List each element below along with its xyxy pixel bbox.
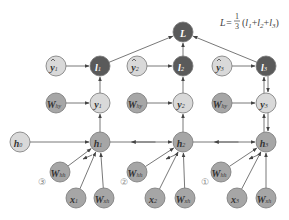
node-h1: h1 (90, 132, 110, 152)
node-yhat3: y3 (212, 56, 232, 76)
node-Whh2: Whh (127, 162, 147, 182)
step-marker-step1: ① (201, 177, 209, 187)
edge-x1-to-h1 (80, 152, 96, 189)
node-y2: y2 (173, 93, 193, 113)
node-yhat1: y1 (46, 56, 66, 76)
node-l3: l3 (256, 56, 276, 76)
step-marker-step2: ② (120, 177, 128, 187)
node-l2: l2 (173, 56, 193, 76)
node-Whh1: Whh (50, 162, 70, 182)
node-label: L (179, 28, 186, 39)
formula-frac-num: 1 (235, 12, 239, 21)
node-h0: h0 (10, 132, 30, 152)
formula-sum: (l1+l2+l3) (242, 17, 279, 30)
node-yhat2: y2 (127, 56, 147, 76)
backprop-edge-h2-to-whh (166, 155, 175, 159)
node-Wxh1: Wxh (94, 188, 114, 208)
node-Why2: Why (127, 93, 147, 113)
node-Wxh2: Wxh (175, 188, 195, 208)
node-Whh3: Whh (211, 162, 231, 182)
node-y3: y3 (256, 93, 276, 113)
node-Why3: Why (212, 93, 232, 113)
nodes: Ly1l1y2l2y3l3Whyy1Whyy2Whyy3h0h1h2h3Whhx… (10, 22, 276, 208)
edge-Wxh2-to-h2 (183, 153, 184, 188)
rnn-diagram: Ly1l1y2l2y3l3Whyy1Whyy2Whyy3h0h1h2h3Whhx… (0, 0, 289, 220)
loss-formula: L= 1 3 (l1+l2+l3) (219, 12, 279, 31)
node-L: L (173, 22, 193, 42)
node-Wxh3: Wxh (256, 188, 276, 208)
backprop-edge-h3-to-whh (249, 155, 258, 159)
edge-x3-to-h3 (242, 152, 261, 189)
node-Why1: Why (46, 93, 66, 113)
node-h3: h3 (256, 132, 276, 152)
edge-Wxh1-to-h1 (101, 153, 104, 188)
step-marker-step3: ③ (38, 177, 46, 187)
formula-lhs: L= (219, 17, 232, 28)
backprop-edge-h1-to-whh (83, 155, 92, 159)
node-x1: x1 (66, 188, 86, 208)
node-x3: x3 (227, 188, 247, 208)
node-h2: h2 (173, 132, 193, 152)
node-x2: x2 (145, 188, 165, 208)
node-y1: y1 (90, 93, 110, 113)
node-l1: l1 (90, 56, 110, 76)
formula-frac-den: 3 (235, 22, 239, 31)
